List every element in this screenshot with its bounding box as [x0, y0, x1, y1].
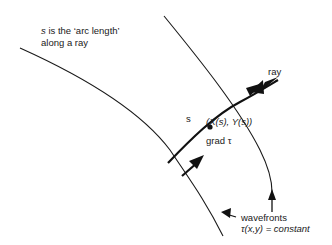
wavefront-equation-text: τ(x,y) = constant	[241, 223, 310, 234]
grad-tau-label: grad τ	[206, 135, 231, 146]
caption-line-2: along a ray	[41, 37, 88, 48]
ray-wavefront-diagram: s is the ‘arc length’ along a ray ray s …	[0, 0, 332, 245]
caption-line-1-text: is the ‘arc length’	[46, 25, 120, 36]
ray-label: ray	[268, 66, 281, 77]
left-wavefront-curve	[20, 48, 223, 236]
wavefronts-label: wavefronts	[241, 212, 287, 223]
point-coordinates-label: (X(s), Y(s))	[206, 116, 252, 127]
wavefront-pointer-left-head	[221, 208, 231, 218]
caption-line-1: s is the ‘arc length’	[41, 25, 120, 36]
wavefront-pointer-right-head	[268, 189, 276, 200]
wavefront-equation-label: τ(x,y) = constant	[241, 223, 310, 234]
s-label: s	[186, 113, 191, 124]
